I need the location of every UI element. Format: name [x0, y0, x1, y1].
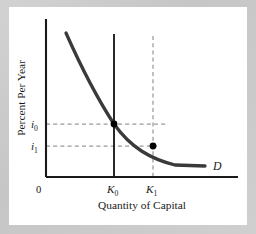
y-axis-title: Percent Per Year — [15, 60, 27, 136]
demand-for-capital-chart: D i0 i1 K0 K1 0 Quantity of Capital Perc… — [9, 7, 247, 225]
x-tick-label-K0: K0 — [106, 183, 118, 198]
x-tick-K0-subscript: 0 — [114, 189, 118, 198]
y-tick-label-i1: i1 — [31, 140, 38, 155]
y-tick-i0-subscript: 0 — [34, 124, 38, 133]
equilibrium-point-1 — [150, 143, 157, 150]
demand-curve — [66, 33, 205, 166]
figure-root: D i0 i1 K0 K1 0 Quantity of Capital Perc… — [0, 0, 256, 234]
x-tick-K1-subscript: 1 — [153, 189, 157, 198]
origin-label: 0 — [36, 184, 41, 195]
x-axis-title: Quantity of Capital — [98, 199, 186, 211]
y-tick-i1-subscript: 1 — [34, 146, 38, 155]
x-tick-label-K1: K1 — [145, 183, 157, 198]
equilibrium-point-0 — [111, 121, 118, 128]
curve-label-D: D — [212, 159, 222, 173]
plot-card: D i0 i1 K0 K1 0 Quantity of Capital Perc… — [9, 7, 247, 225]
y-tick-label-i0: i0 — [31, 118, 38, 133]
